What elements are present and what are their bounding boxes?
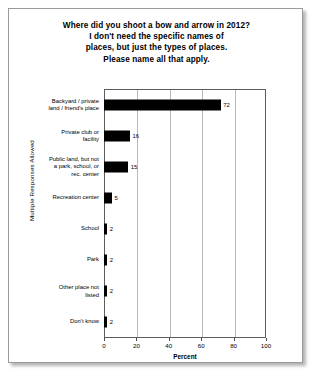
chart-title-line-4: Please name all that apply.	[9, 54, 304, 65]
bar-value-label: 5	[115, 195, 118, 201]
chart-title-line-1: Where did you shoot a bow and arrow in 2…	[9, 20, 304, 31]
bar	[104, 130, 130, 141]
category-label-line: Backyard / private	[9, 97, 99, 104]
chart-title: Where did you shoot a bow and arrow in 2…	[9, 20, 304, 65]
bar	[104, 317, 107, 328]
bar-value-label: 2	[110, 319, 113, 325]
x-axis-ticks: 020406080100	[104, 338, 266, 354]
category-label-line: rec. center	[9, 171, 99, 178]
bar-value-label: 2	[110, 257, 113, 263]
bar	[104, 161, 128, 172]
x-tick-label: 80	[230, 342, 237, 349]
x-tick-label: 40	[165, 342, 172, 349]
bar-value-label: 16	[132, 133, 139, 139]
x-tick-mark	[266, 338, 267, 341]
category-label-line: Other place not	[9, 284, 99, 291]
category-label: Don't know	[9, 319, 99, 326]
category-label-column: Backyard / privateland / friend's placeP…	[9, 89, 102, 338]
bar-value-label: 2	[110, 288, 113, 294]
bar-value-label: 2	[110, 226, 113, 232]
category-label: Private club orfacility	[9, 128, 99, 143]
x-tick-label: 20	[133, 342, 140, 349]
category-label: Backyard / privateland / friend's place	[9, 97, 99, 112]
category-label: School	[9, 225, 99, 232]
category-label-line: land / friend's place	[9, 105, 99, 112]
category-label-line: Recreation center	[9, 194, 99, 201]
x-tick-mark	[104, 338, 105, 341]
x-tick-mark	[201, 338, 202, 341]
category-label-line: Public land, but not	[9, 156, 99, 163]
bars-layer: 72161552222	[104, 89, 266, 338]
bar	[104, 192, 112, 203]
chart-title-line-3: places, but just the types of places.	[9, 42, 304, 53]
category-label-line: Park	[9, 256, 99, 263]
x-tick-label: 0	[102, 342, 105, 349]
bar-value-label: 15	[131, 164, 138, 170]
bar	[104, 224, 107, 235]
category-label-line: School	[9, 225, 99, 232]
category-label: Recreation center	[9, 194, 99, 201]
x-tick-mark	[169, 338, 170, 341]
category-label: Park	[9, 256, 99, 263]
category-label-line: facility	[9, 136, 99, 143]
bar-value-label: 72	[223, 102, 230, 108]
x-tick-mark	[234, 338, 235, 341]
x-tick-mark	[136, 338, 137, 341]
category-label: Public land, but nota park, school, orre…	[9, 156, 99, 178]
category-label-line: listed	[9, 291, 99, 298]
chart-card: Where did you shoot a bow and arrow in 2…	[8, 8, 303, 363]
x-axis-label: Percent	[104, 353, 266, 360]
category-label: Other place notlisted	[9, 284, 99, 299]
bar	[104, 255, 107, 266]
category-label-line: a park, school, or	[9, 163, 99, 170]
chart-title-line-2: I don't need the specific names of	[9, 31, 304, 42]
category-label-line: Private club or	[9, 128, 99, 135]
bar	[104, 99, 221, 110]
bar-chart: Multiple Responses Allowed Backyard / pr…	[9, 81, 304, 364]
bar	[104, 286, 107, 297]
x-tick-label: 60	[198, 342, 205, 349]
category-label-line: Don't know	[9, 319, 99, 326]
x-tick-label: 100	[261, 342, 271, 349]
